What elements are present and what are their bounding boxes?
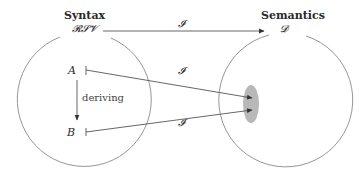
b-mapping-label: 𝓘 [178,118,185,128]
syntax-title: Syntax [64,10,105,21]
a-mapping-label: 𝓘 [178,66,185,76]
semantics-circle [219,35,353,167]
b-mapping-arrow [86,110,252,132]
top-mapping-label: 𝓘 [178,19,185,29]
rsv-label: 𝓡𝓢𝓥 [72,24,97,34]
domain-label: 𝓓 [280,24,288,34]
node-b: B [67,127,75,138]
semantic-region [243,85,259,123]
node-a: A [68,65,76,76]
semantics-title: Semantics [261,10,325,21]
deriving-label: deriving [82,93,124,103]
